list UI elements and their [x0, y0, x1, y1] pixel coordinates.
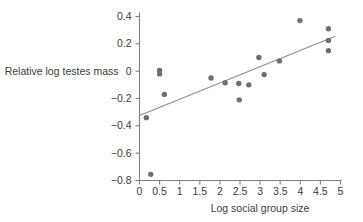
x-tick-label: 4 [297, 185, 303, 197]
x-tick-label: 3 [257, 185, 263, 197]
y-axis-title: Relative log testes mass [5, 65, 119, 77]
data-point [277, 58, 282, 63]
x-tick-label: 1 [177, 185, 183, 197]
data-point [326, 26, 331, 31]
x-tick-label: 3.5 [273, 185, 288, 197]
data-point [208, 75, 213, 80]
data-point [246, 82, 251, 87]
y-tick-label: 0.2 [117, 37, 132, 49]
x-axis-tick-labels: 00.511.522.533.544.55 [137, 185, 344, 197]
x-tick-label: 4.5 [313, 185, 328, 197]
data-point [297, 18, 302, 23]
y-tick-label: −0.4 [111, 119, 132, 131]
data-point [261, 72, 266, 77]
x-tick-label: 2 [217, 185, 223, 197]
data-point [148, 172, 153, 177]
y-tick-label: −0.6 [111, 147, 132, 159]
regression-line [140, 36, 336, 115]
data-point [144, 115, 149, 120]
data-point [256, 55, 261, 60]
x-tick-label: 1.5 [192, 185, 207, 197]
x-tick-label: 5 [338, 185, 344, 197]
y-axis-tick-marks [136, 17, 140, 181]
x-axis-title: Log social group size [211, 202, 310, 214]
y-tick-label: 0 [126, 65, 132, 77]
data-point [162, 92, 167, 97]
chart-canvas: 00.511.522.533.544.55 0.40.20−0.2−0.4−0.… [0, 0, 363, 222]
y-tick-label: −0.8 [111, 174, 132, 186]
scatter-plot-figure: 00.511.522.533.544.55 0.40.20−0.2−0.4−0.… [0, 0, 363, 222]
x-tick-label: 2.5 [233, 185, 248, 197]
data-point [326, 38, 331, 43]
x-tick-label: 0.5 [152, 185, 167, 197]
data-point-group [144, 18, 332, 177]
y-tick-label: 0.4 [117, 10, 132, 22]
data-point [236, 97, 241, 102]
y-tick-label: −0.2 [111, 92, 132, 104]
data-point [222, 80, 227, 85]
data-point [157, 71, 162, 76]
y-axis-tick-labels: 0.40.20−0.2−0.4−0.6−0.8 [111, 10, 132, 186]
data-point [326, 48, 331, 53]
x-tick-label: 0 [137, 185, 143, 197]
data-point [236, 81, 241, 86]
